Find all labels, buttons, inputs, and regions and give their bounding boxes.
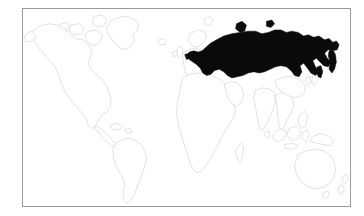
map-frame bbox=[22, 8, 351, 207]
world-map-svg[interactable] bbox=[23, 9, 350, 206]
figure-root bbox=[0, 0, 364, 216]
